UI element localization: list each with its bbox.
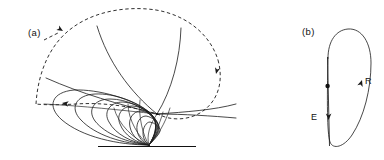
figure-canvas: (a) (b) E R [0,0,384,160]
label-e: E [311,112,317,122]
orbit-marker-dot [325,84,329,88]
panel-a-label: (a) [28,27,41,38]
panel-b-label: (b) [302,26,315,37]
canvas-background [0,0,384,160]
label-r: R [365,76,372,86]
convergence-node [156,113,158,115]
figure-root: (a) (b) E R [0,0,384,160]
